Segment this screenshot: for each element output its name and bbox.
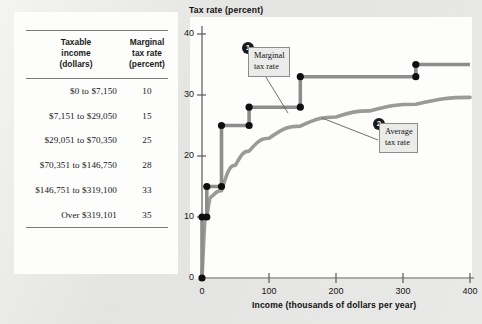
y-tick-label: 30 (168, 89, 194, 99)
tax-bracket-table-panel: Taxable income (dollars) Marginal tax ra… (14, 12, 178, 274)
cell-marginal-tax-rate: 10 (126, 78, 168, 103)
header-line: tax rate (126, 48, 168, 59)
y-tick-label: 20 (168, 150, 194, 160)
annotation-line: Marginal (254, 51, 285, 62)
x-tick-label: 0 (186, 286, 218, 296)
table-header-row: Taxable income (dollars) Marginal tax ra… (26, 31, 168, 79)
cell-marginal-tax-rate: 33 (126, 178, 168, 203)
annotation-line: tax rate (385, 138, 413, 149)
annotation-marginal-tax-rate: Marginal tax rate (248, 47, 290, 77)
y-tick-label: 0 (168, 272, 194, 282)
y-axis-title: Tax rate (percent) (189, 5, 263, 15)
annotation-average-tax-rate: Average tax rate (379, 123, 418, 153)
annotation-line: Average (385, 127, 413, 138)
table-body: $0 to $7,15010$7,151 to $29,05015$29,051… (26, 78, 168, 228)
column-header-marginal-tax-rate: Marginal tax rate (percent) (126, 31, 168, 79)
table-row: $146,751 to $319,10033 (26, 178, 168, 203)
chart-panel (190, 17, 472, 279)
cell-taxable-income: $7,151 to $29,050 (26, 103, 126, 128)
table-header: Taxable income (dollars) Marginal tax ra… (26, 31, 168, 79)
cell-taxable-income: $0 to $7,150 (26, 78, 126, 103)
cell-taxable-income: Over $319,101 (26, 202, 126, 227)
x-tick-label: 100 (253, 286, 285, 296)
table-row: $7,151 to $29,05015 (26, 103, 168, 128)
cell-taxable-income: $146,751 to $319,100 (26, 178, 126, 203)
header-line: (dollars) (26, 59, 126, 70)
header-line: income (26, 48, 126, 59)
cell-marginal-tax-rate: 28 (126, 153, 168, 178)
x-tick-label: 200 (320, 286, 352, 296)
header-line: Marginal (126, 37, 168, 48)
x-tick-label: 400 (454, 286, 482, 296)
cell-marginal-tax-rate: 15 (126, 103, 168, 128)
cell-taxable-income: $70,351 to $146,750 (26, 153, 126, 178)
cell-taxable-income: $29,051 to $70,350 (26, 128, 126, 153)
table-row: $29,051 to $70,35025 (26, 128, 168, 153)
tax-bracket-table: Taxable income (dollars) Marginal tax ra… (26, 30, 168, 228)
annotation-line: tax rate (254, 62, 285, 73)
table-row: Over $319,10135 (26, 202, 168, 227)
cell-marginal-tax-rate: 35 (126, 202, 168, 227)
x-tick-label: 300 (387, 286, 419, 296)
header-line: Taxable (26, 37, 126, 48)
cell-marginal-tax-rate: 25 (126, 128, 168, 153)
header-line: (percent) (126, 59, 168, 70)
table-row: $0 to $7,15010 (26, 78, 168, 103)
x-axis-title: Income (thousands of dollars per year) (252, 300, 416, 310)
y-tick-label: 10 (168, 211, 194, 221)
column-header-taxable-income: Taxable income (dollars) (26, 31, 126, 79)
y-tick-label: 40 (168, 28, 194, 38)
table-row: $70,351 to $146,75028 (26, 153, 168, 178)
